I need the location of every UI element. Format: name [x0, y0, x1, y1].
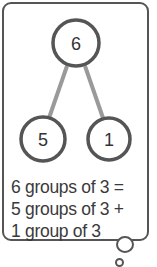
part-value-right: 1	[104, 130, 114, 150]
bubble-tail-small	[115, 258, 124, 267]
connector-right	[85, 66, 103, 118]
caption: 6 groups of 3 = 5 groups of 3 + 1 group …	[11, 176, 151, 242]
bubble-tail-large	[116, 236, 134, 253]
part-node-left: 5	[21, 117, 65, 161]
part-node-right: 1	[88, 118, 130, 160]
connector-left	[49, 66, 67, 118]
caption-line-1: 6 groups of 3 =	[11, 176, 151, 198]
whole-node: 6	[53, 20, 99, 66]
caption-line-2: 5 groups of 3 +	[11, 198, 151, 220]
whole-value: 6	[71, 34, 81, 54]
part-value-left: 5	[38, 130, 48, 150]
